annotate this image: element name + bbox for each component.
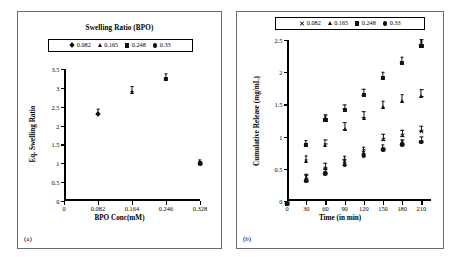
y-tick-label: 2 bbox=[56, 122, 59, 129]
x-tick bbox=[383, 201, 384, 205]
square-marker-icon bbox=[164, 77, 168, 81]
cross-marker-icon bbox=[381, 137, 386, 142]
x-tick bbox=[287, 201, 288, 205]
square-marker-icon bbox=[419, 44, 423, 48]
error-bar-cap bbox=[420, 39, 424, 40]
data-point bbox=[361, 141, 366, 159]
error-bar-cap bbox=[198, 160, 202, 161]
cross-marker-icon bbox=[400, 133, 405, 138]
legend-label: 0.165 bbox=[104, 42, 118, 48]
error-bar-cap bbox=[381, 72, 385, 73]
error-bar-cap bbox=[164, 73, 168, 74]
error-bar bbox=[363, 111, 364, 119]
data-point bbox=[342, 150, 347, 168]
x-tick-label: 120 bbox=[359, 205, 369, 212]
cross-marker-icon bbox=[342, 159, 347, 164]
error-bar-cap bbox=[324, 168, 328, 169]
error-bar bbox=[165, 73, 166, 78]
error-bar-cap bbox=[420, 137, 424, 138]
panel-a-legend: 0.0820.1650.2480.33 bbox=[48, 39, 193, 52]
legend-item-0.082: 0.082 bbox=[299, 20, 320, 26]
square-marker-icon bbox=[381, 76, 385, 80]
y-tick bbox=[61, 126, 65, 127]
error-bar-cap bbox=[343, 165, 347, 166]
error-bar-cap bbox=[420, 141, 424, 142]
error-bar-cap bbox=[198, 162, 202, 163]
circle-marker-icon bbox=[400, 142, 405, 147]
square-marker-icon bbox=[343, 108, 347, 112]
y-tick-label: 0.5 bbox=[275, 165, 283, 172]
data-point bbox=[362, 144, 367, 162]
error-bar-cap bbox=[381, 134, 385, 135]
error-bar-cap bbox=[96, 109, 100, 110]
x-tick-label: 0.082 bbox=[91, 205, 105, 212]
error-bar-cap bbox=[343, 122, 347, 123]
data-point bbox=[381, 128, 386, 146]
x-tick bbox=[325, 201, 326, 205]
circle-marker-icon bbox=[323, 171, 328, 176]
error-bar-cap bbox=[381, 144, 385, 145]
error-bar bbox=[344, 159, 345, 165]
data-point bbox=[400, 133, 405, 151]
error-bar-cap bbox=[304, 173, 308, 174]
triangle-marker-icon bbox=[343, 127, 347, 131]
error-bar bbox=[402, 94, 403, 102]
error-bar-cap bbox=[420, 90, 424, 91]
legend-label: 0.082 bbox=[77, 42, 91, 48]
diamond-marker-icon bbox=[95, 111, 101, 117]
error-bar-cap bbox=[324, 143, 328, 144]
panel-b-y-axis bbox=[287, 40, 289, 201]
triangle-marker-icon bbox=[400, 99, 404, 103]
error-bar-cap bbox=[304, 159, 308, 160]
data-point bbox=[419, 84, 423, 102]
data-point bbox=[381, 95, 385, 113]
error-bar bbox=[402, 130, 403, 136]
data-point bbox=[419, 130, 424, 148]
x-tick-label: 0.164 bbox=[125, 205, 139, 212]
x-tick bbox=[345, 201, 346, 205]
circle-marker-icon bbox=[381, 147, 386, 152]
error-bar bbox=[325, 168, 326, 174]
error-bar-cap bbox=[304, 143, 308, 144]
error-bar-cap bbox=[362, 94, 366, 95]
y-tick bbox=[61, 144, 65, 145]
y-tick-label: 2.5 bbox=[52, 103, 60, 110]
y-tick bbox=[61, 107, 65, 108]
y-tick-label: 2.5 bbox=[275, 37, 283, 44]
data-point bbox=[342, 153, 347, 171]
error-bar-cap bbox=[343, 109, 347, 110]
data-point bbox=[400, 51, 404, 69]
error-bar bbox=[306, 155, 307, 160]
error-bar bbox=[402, 57, 403, 63]
y-tick bbox=[284, 137, 288, 138]
y-tick-label: 3 bbox=[56, 84, 59, 91]
x-tick bbox=[98, 201, 99, 205]
error-bar bbox=[382, 144, 383, 149]
data-point bbox=[304, 168, 309, 186]
legend-label: 0.33 bbox=[160, 42, 171, 48]
error-bar bbox=[382, 72, 383, 78]
error-bar bbox=[421, 137, 422, 142]
error-bar-cap bbox=[420, 96, 424, 97]
square-marker-icon bbox=[125, 43, 129, 47]
data-point bbox=[381, 66, 385, 84]
error-bar-cap bbox=[304, 179, 308, 180]
error-bar-cap bbox=[343, 161, 347, 162]
triangle-marker-icon bbox=[381, 105, 385, 109]
legend-label: 0.248 bbox=[132, 42, 146, 48]
error-bar-cap bbox=[324, 168, 328, 169]
panel-b-plot-area: 00.511.522.50306090120150180210 bbox=[287, 40, 431, 201]
data-point bbox=[381, 138, 386, 156]
error-bar bbox=[421, 90, 422, 98]
y-tick bbox=[284, 72, 288, 73]
circle-marker-icon bbox=[383, 21, 388, 26]
circle-marker-icon bbox=[362, 153, 367, 158]
error-bar-cap bbox=[304, 140, 308, 141]
error-bar-cap bbox=[420, 131, 424, 132]
error-bar-cap bbox=[400, 136, 404, 137]
error-bar-cap bbox=[324, 119, 328, 120]
panel-b-y-axis-title: Cumulative Release (mg/mL) bbox=[253, 61, 261, 181]
y-tick-label: 1.5 bbox=[52, 141, 60, 148]
y-tick-label: 1 bbox=[279, 133, 282, 140]
panel-a-y-axis bbox=[64, 69, 66, 201]
